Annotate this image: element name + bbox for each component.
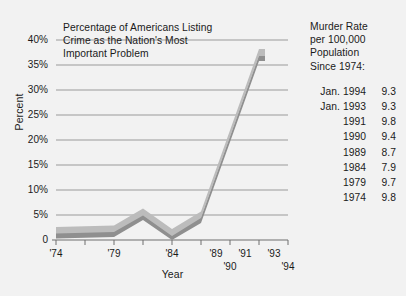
rate-value: 7.9 (366, 161, 396, 174)
table-row: 1979 9.7 (310, 175, 402, 190)
table-row: 1984 7.9 (310, 160, 402, 175)
table-row: Jan. 1993 9.3 (310, 99, 402, 114)
rate-year: 1984 (310, 161, 366, 174)
chart-title-line-2: Crime as the Nation's Most (63, 34, 212, 47)
rate-value: 9.3 (366, 85, 396, 98)
murder-rate-heading-line-4: Since 1974: (310, 60, 402, 73)
y-tick-label-0: 0 (14, 234, 48, 245)
table-row: 1991 9.8 (310, 114, 402, 129)
y-tick-label-40: 40% (14, 34, 48, 45)
rate-value: 9.4 (366, 130, 396, 143)
rate-value: 8.7 (366, 146, 396, 159)
chart-plot-area: Percentage of Americans Listing Crime as… (0, 0, 300, 296)
x-tick-label-89: '89 (201, 248, 231, 259)
rate-value: 9.7 (366, 176, 396, 189)
data-line-band (56, 49, 265, 236)
rate-year: 1989 (310, 146, 366, 159)
rate-year: 1974 (310, 191, 366, 204)
x-tick-label-91: '91 (230, 248, 260, 259)
y-tick-label-5: 5% (14, 209, 48, 220)
chart-title-line-3: Important Problem (63, 47, 212, 60)
rate-year: 1990 (310, 130, 366, 143)
x-tick-label-93: '93 (259, 248, 289, 259)
murder-rate-heading-line-2: per 100,000 (310, 33, 402, 46)
x-tick-label-79: '79 (99, 248, 129, 259)
y-tick-label-15: 15% (14, 159, 48, 170)
murder-rate-list: Jan. 1994 9.3 Jan. 1993 9.3 1991 9.8 199… (310, 84, 402, 206)
x-tick-label-74: '74 (41, 248, 71, 259)
figure-canvas: Percentage of Americans Listing Crime as… (0, 0, 406, 296)
x-tick-label-84: '84 (157, 248, 187, 259)
rate-value: 9.3 (366, 100, 396, 113)
rate-value: 9.8 (366, 191, 396, 204)
x-axis-ticks (56, 240, 288, 245)
table-row: Jan. 1994 9.3 (310, 84, 402, 99)
x-axis-label: Year (55, 268, 290, 280)
y-tick-label-10: 10% (14, 184, 48, 195)
chart-title: Percentage of Americans Listing Crime as… (63, 21, 212, 60)
murder-rate-panel: Murder Rate per 100,000 Population Since… (310, 20, 402, 205)
table-row: 1989 8.7 (310, 145, 402, 160)
table-row: 1990 9.4 (310, 129, 402, 144)
murder-rate-heading: Murder Rate per 100,000 Population Since… (310, 20, 402, 73)
rate-year: 1991 (310, 115, 366, 128)
rate-year: Jan. 1994 (310, 85, 366, 98)
rate-year: Jan. 1993 (310, 100, 366, 113)
data-line-shadow (56, 55, 265, 240)
y-axis-label: Percent (13, 77, 25, 147)
chart-title-line-1: Percentage of Americans Listing (63, 21, 212, 34)
y-tick-label-35: 35% (14, 59, 48, 70)
murder-rate-heading-line-1: Murder Rate (310, 20, 402, 33)
rate-year: 1979 (310, 176, 366, 189)
table-row: 1974 9.8 (310, 190, 402, 205)
rate-value: 9.8 (366, 115, 396, 128)
murder-rate-heading-line-3: Population (310, 46, 402, 59)
